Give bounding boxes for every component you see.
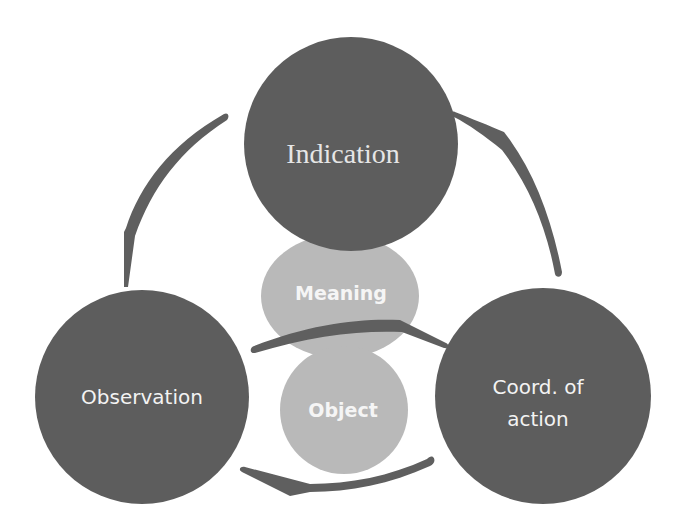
label-coord-line2: action: [507, 407, 569, 431]
label-meaning: Meaning: [295, 282, 387, 304]
arrow-indication-to-coord: [451, 112, 562, 277]
label-observation: Observation: [81, 385, 203, 409]
label-object: Object: [308, 399, 378, 421]
cycle-diagram: Indication Observation Coord. of action …: [0, 0, 683, 532]
label-coord-line1: Coord. of: [493, 375, 585, 399]
label-indication: Indication: [286, 138, 400, 169]
arrow-observation-to-indication: [124, 113, 228, 287]
